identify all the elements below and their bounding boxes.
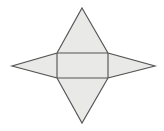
filled-regions <box>12 8 155 123</box>
right-triangle <box>108 53 155 78</box>
lower-triangle <box>57 78 108 123</box>
star-net-figure: Star-shaped geometric net <box>0 0 164 131</box>
upper-triangle <box>57 8 108 53</box>
left-triangle <box>12 53 57 78</box>
figure-canvas: Star-shaped geometric net <box>0 0 164 131</box>
center-rectangle-fill <box>57 53 108 78</box>
